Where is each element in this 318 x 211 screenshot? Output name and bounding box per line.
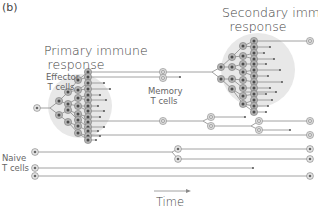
effector-label-line2: T cells bbox=[46, 83, 76, 93]
time-label: Time bbox=[150, 196, 190, 209]
secondary-label-line2: response bbox=[222, 20, 294, 34]
primary-label-line2: response bbox=[44, 58, 108, 72]
memory-label-line2: T cells bbox=[148, 97, 180, 107]
time-arrow-icon bbox=[154, 189, 191, 193]
naive-label: Naive T cells bbox=[2, 154, 30, 174]
naive-label-line2: T cells bbox=[2, 164, 30, 174]
primary-response-label: Primary immune response bbox=[44, 44, 108, 73]
memory-label: Memory T cells bbox=[148, 87, 180, 107]
secondary-label-line1: Secondary immune bbox=[222, 6, 294, 20]
effector-label: Effector T cells bbox=[46, 73, 76, 93]
naive-cells bbox=[32, 146, 314, 180]
primary-label-line1: Primary immune bbox=[44, 44, 108, 58]
secondary-response-label: Secondary immune response bbox=[222, 6, 294, 35]
